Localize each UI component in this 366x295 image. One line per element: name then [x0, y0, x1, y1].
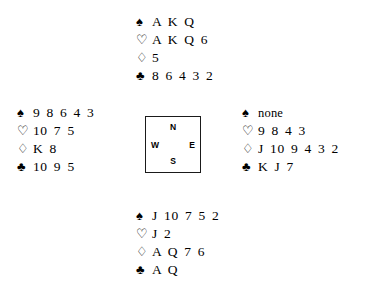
north-diamond-cards: 5 — [151, 49, 159, 67]
south-diamond-cards: A Q 7 6 — [151, 243, 205, 261]
east-diamond-row: ♢ J 10 9 4 3 2 — [242, 140, 339, 158]
east-heart-cards: 9 8 4 3 — [257, 122, 306, 140]
south-club-row: ♣ A Q — [136, 261, 219, 279]
compass-west-label: W — [151, 140, 159, 149]
club-suit-icon: ♣ — [242, 158, 257, 176]
heart-suit-icon: ♡ — [17, 122, 32, 140]
west-diamond-cards: K 8 — [32, 140, 57, 158]
west-spade-cards: 9 8 6 4 3 — [32, 104, 94, 122]
east-spade-row: ♠ none — [242, 104, 339, 122]
heart-suit-icon: ♡ — [136, 225, 151, 243]
north-heart-row: ♡ A K Q 6 — [136, 31, 213, 49]
spade-suit-icon: ♠ — [136, 13, 151, 31]
south-heart-cards: J 2 — [151, 225, 171, 243]
diamond-suit-icon: ♢ — [242, 140, 257, 158]
diamond-suit-icon: ♢ — [136, 243, 151, 261]
north-spade-row: ♠ A K Q — [136, 13, 213, 31]
heart-suit-icon: ♡ — [136, 31, 151, 49]
north-spade-cards: A K Q — [151, 13, 195, 31]
south-heart-row: ♡ J 2 — [136, 225, 219, 243]
spade-suit-icon: ♠ — [242, 104, 257, 122]
east-heart-row: ♡ 9 8 4 3 — [242, 122, 339, 140]
compass-east-label: E — [189, 140, 195, 149]
club-suit-icon: ♣ — [136, 67, 151, 85]
south-spade-cards: J 10 7 5 2 — [151, 207, 219, 225]
east-diamond-cards: J 10 9 4 3 2 — [257, 140, 339, 158]
compass-north-label: N — [170, 123, 176, 132]
south-spade-row: ♠ J 10 7 5 2 — [136, 207, 219, 225]
heart-suit-icon: ♡ — [242, 122, 257, 140]
south-hand: ♠ J 10 7 5 2 ♡ J 2 ♢ A Q 7 6 ♣ A Q — [136, 207, 219, 279]
west-club-cards: 10 9 5 — [32, 158, 75, 176]
club-suit-icon: ♣ — [17, 158, 32, 176]
spade-suit-icon: ♠ — [136, 207, 151, 225]
east-spade-cards: none — [257, 104, 283, 122]
east-hand: ♠ none ♡ 9 8 4 3 ♢ J 10 9 4 3 2 ♣ K J 7 — [242, 104, 339, 176]
west-hand: ♠ 9 8 6 4 3 ♡ 10 7 5 ♢ K 8 ♣ 10 9 5 — [17, 104, 94, 176]
compass-south-label: S — [170, 157, 176, 166]
north-club-cards: 8 6 4 3 2 — [151, 67, 213, 85]
west-club-row: ♣ 10 9 5 — [17, 158, 94, 176]
north-hand: ♠ A K Q ♡ A K Q 6 ♢ 5 ♣ 8 6 4 3 2 — [136, 13, 213, 85]
south-diamond-row: ♢ A Q 7 6 — [136, 243, 219, 261]
west-heart-row: ♡ 10 7 5 — [17, 122, 94, 140]
east-club-row: ♣ K J 7 — [242, 158, 339, 176]
north-heart-cards: A K Q 6 — [151, 31, 208, 49]
bridge-hand-diagram: ♠ A K Q ♡ A K Q 6 ♢ 5 ♣ 8 6 4 3 2 ♠ 9 8 … — [0, 0, 366, 295]
diamond-suit-icon: ♢ — [136, 49, 151, 67]
spade-suit-icon: ♠ — [17, 104, 32, 122]
west-heart-cards: 10 7 5 — [32, 122, 75, 140]
east-club-cards: K J 7 — [257, 158, 294, 176]
club-suit-icon: ♣ — [136, 261, 151, 279]
west-spade-row: ♠ 9 8 6 4 3 — [17, 104, 94, 122]
west-diamond-row: ♢ K 8 — [17, 140, 94, 158]
compass-box: N E S W — [145, 116, 201, 173]
north-diamond-row: ♢ 5 — [136, 49, 213, 67]
south-club-cards: A Q — [151, 261, 178, 279]
north-club-row: ♣ 8 6 4 3 2 — [136, 67, 213, 85]
diamond-suit-icon: ♢ — [17, 140, 32, 158]
